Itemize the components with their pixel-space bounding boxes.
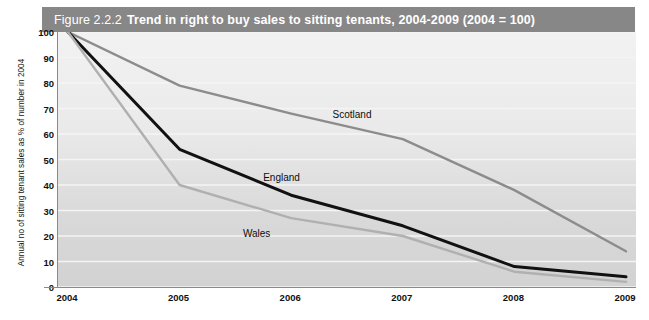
figure-container: Figure 2.2.2 Trend in right to buy sales… [0,0,649,320]
chart-lines-svg [58,32,636,287]
y-axis-tick-label: 100 [18,27,54,38]
x-axis-tick-label: 2006 [255,292,325,303]
y-axis-tick-label: 20 [18,231,54,242]
x-axis-line [44,287,636,288]
y-axis-tick-label: 70 [18,103,54,114]
x-axis-tick-label: 2004 [32,292,102,303]
x-axis-tick-labels: 200420052006200720082009 [57,292,635,312]
series-line-england [68,32,626,277]
y-axis-tick-label: 30 [18,205,54,216]
y-axis-tick-label: 60 [18,129,54,140]
x-axis-tick-label: 2005 [144,292,214,303]
y-axis-tick-label: 10 [18,256,54,267]
x-axis-tick-label: 2007 [367,292,437,303]
series-label-england: England [263,172,300,183]
y-axis-tick-label: 50 [18,154,54,165]
series-line-wales [68,32,626,282]
figure-number: Figure 2.2.2 [54,13,122,27]
y-axis-tick-labels: 1009080706050403020100 [18,25,54,287]
y-axis-tick-label: 80 [18,78,54,89]
figure-title-bar: Figure 2.2.2 Trend in right to buy sales… [42,7,635,32]
x-axis-tick-label: 2009 [590,292,649,303]
x-axis-tick-label: 2008 [478,292,548,303]
series-label-wales: Wales [243,228,270,239]
y-axis-tick-label: 90 [18,52,54,63]
figure-title: Trend in right to buy sales to sitting t… [127,13,535,27]
series-label-scotland: Scotland [333,109,372,120]
y-axis-tick-label: 40 [18,180,54,191]
plot-area: ScotlandEnglandWales [57,32,636,287]
series-line-scotland [68,32,626,251]
